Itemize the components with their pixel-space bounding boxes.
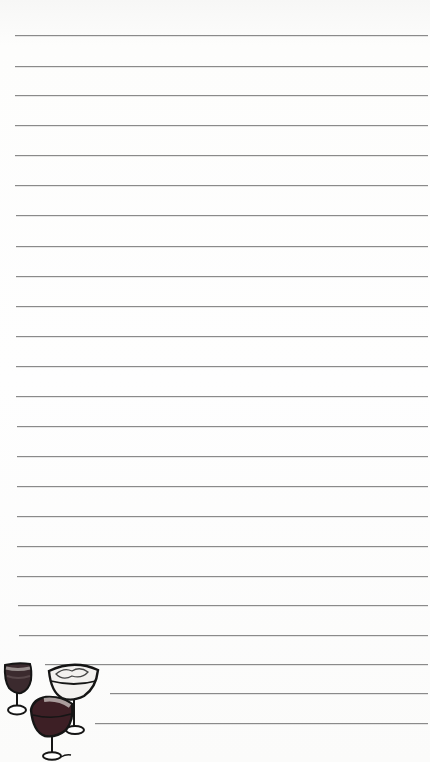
ruled-line — [16, 215, 428, 216]
small-wine-glass-icon — [5, 663, 32, 714]
ruled-line — [17, 486, 428, 487]
ruled-line — [16, 276, 428, 277]
ruled-line — [15, 35, 428, 36]
ruled-line — [17, 456, 428, 457]
ruled-line — [17, 516, 428, 517]
ruled-line — [15, 95, 428, 96]
ruled-line — [15, 185, 428, 186]
ruled-line — [16, 366, 428, 367]
ruled-line — [17, 576, 428, 577]
red-wine-glass-icon — [31, 697, 72, 760]
ruled-line — [17, 546, 428, 547]
ruled-line — [15, 66, 428, 67]
ruled-line — [110, 693, 428, 694]
ruled-line — [18, 605, 428, 606]
ruled-line — [16, 336, 428, 337]
ruled-line — [19, 635, 428, 636]
ruled-line — [17, 426, 428, 427]
ruled-line — [15, 155, 428, 156]
ruled-line — [16, 306, 428, 307]
ruled-line — [15, 125, 428, 126]
ruled-line — [16, 396, 428, 397]
ruled-line — [16, 246, 428, 247]
wine-glasses-illustration — [0, 640, 150, 762]
